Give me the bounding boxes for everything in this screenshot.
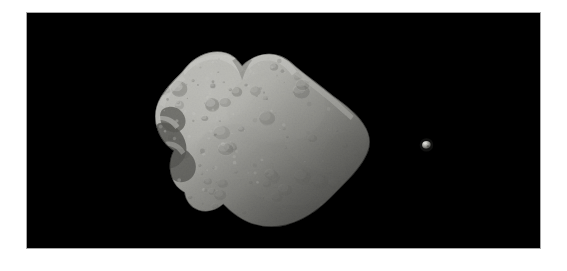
page-root: Ida Dactyl Spacecraft photograph of a he… <box>0 0 567 271</box>
moon-dactyl <box>420 138 434 151</box>
dactyl-highlight <box>423 142 427 145</box>
dactyl-crater <box>427 145 430 147</box>
space-scene <box>27 13 540 248</box>
dactyl-body <box>422 141 431 149</box>
photo-frame <box>26 12 541 249</box>
